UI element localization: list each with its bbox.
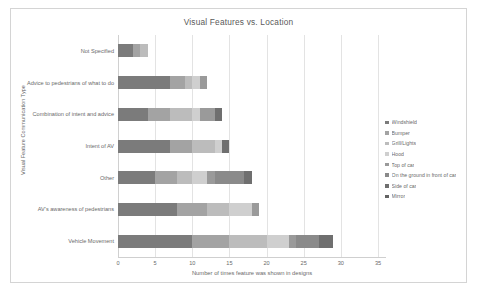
legend-swatch-icon xyxy=(385,142,389,146)
x-axis-tick-label: 10 xyxy=(189,260,195,266)
legend-item[interactable]: Mirror xyxy=(385,191,479,202)
x-axis-tick-label: 0 xyxy=(116,260,119,266)
bar-segment[interactable] xyxy=(215,108,222,121)
bar-segment[interactable] xyxy=(118,44,133,57)
legend-swatch-icon xyxy=(385,152,389,156)
bar-segment[interactable] xyxy=(170,108,192,121)
bar-segment[interactable] xyxy=(267,235,289,248)
legend-label: Grill/Lights xyxy=(392,140,417,146)
gridline-20 xyxy=(267,35,268,257)
bar-segment[interactable] xyxy=(319,235,334,248)
bar-segment[interactable] xyxy=(118,140,170,153)
bar-row[interactable] xyxy=(118,140,229,153)
bar-segment[interactable] xyxy=(192,140,214,153)
bar-row[interactable] xyxy=(118,44,148,57)
bar-segment[interactable] xyxy=(118,235,192,248)
legend-label: On the ground in front of car xyxy=(392,172,457,178)
bar-segment[interactable] xyxy=(192,171,207,184)
bar-segment[interactable] xyxy=(200,76,207,89)
x-axis-line xyxy=(118,257,386,258)
bar-segment[interactable] xyxy=(296,235,318,248)
gridline-35 xyxy=(378,35,379,257)
legend-item[interactable]: Top of car xyxy=(385,159,479,170)
legend-label: Top of car xyxy=(392,162,415,168)
legend-label: Bumper xyxy=(392,130,410,136)
bar-segment[interactable] xyxy=(289,235,296,248)
bar-segment[interactable] xyxy=(177,171,192,184)
legend-item[interactable]: Grill/Lights xyxy=(385,138,479,149)
legend-item[interactable]: Hood xyxy=(385,149,479,160)
bar-segment[interactable] xyxy=(118,108,148,121)
bar-segment[interactable] xyxy=(185,76,192,89)
bar-row[interactable] xyxy=(118,108,222,121)
x-axis-tick-label: 15 xyxy=(226,260,232,266)
bar-segment[interactable] xyxy=(207,171,214,184)
bar-segment[interactable] xyxy=(133,44,140,57)
legend-swatch-icon xyxy=(385,131,389,135)
chart-legend: WindshieldBumperGrill/LightsHoodTop of c… xyxy=(385,117,479,202)
legend-swatch-icon xyxy=(385,121,389,125)
bar-segment[interactable] xyxy=(252,203,259,216)
bar-segment[interactable] xyxy=(192,235,229,248)
bar-row[interactable] xyxy=(118,203,259,216)
bar-segment[interactable] xyxy=(229,235,266,248)
y-axis-tick-label: Not Specified xyxy=(81,48,114,54)
legend-item[interactable]: On the ground in front of car xyxy=(385,170,479,181)
bar-row[interactable] xyxy=(118,171,252,184)
bar-segment[interactable] xyxy=(215,140,222,153)
bar-segment[interactable] xyxy=(222,140,229,153)
legend-label: Mirror xyxy=(392,193,406,199)
y-axis-tick-label: Other xyxy=(100,175,114,181)
y-axis-tick-label: Intent of AV xyxy=(85,143,114,149)
legend-swatch-icon xyxy=(385,195,389,199)
x-axis-title: Number of times feature was shown in des… xyxy=(118,270,386,276)
bar-segment[interactable] xyxy=(177,203,207,216)
y-axis-tick-label: Vehicle Movement xyxy=(68,238,114,244)
bar-segment[interactable] xyxy=(192,76,199,89)
bar-segment[interactable] xyxy=(192,108,199,121)
legend-swatch-icon xyxy=(385,184,389,188)
y-axis-tick-label: Advice to pedestrians of what to do xyxy=(27,80,114,86)
x-axis-tick-label: 5 xyxy=(154,260,157,266)
y-axis-tick-labels: Not SpecifiedAdvice to pedestrians of wh… xyxy=(41,35,114,257)
legend-item[interactable]: Bumper xyxy=(385,128,479,139)
x-axis-tick-label: 25 xyxy=(301,260,307,266)
bar-segment[interactable] xyxy=(148,108,170,121)
legend-label: Side of car xyxy=(392,183,417,189)
legend-label: Hood xyxy=(392,151,404,157)
x-axis-tick-label: 20 xyxy=(263,260,269,266)
bar-segment[interactable] xyxy=(170,76,185,89)
x-axis-tick-label: 35 xyxy=(375,260,381,266)
legend-swatch-icon xyxy=(385,173,389,177)
bar-segment[interactable] xyxy=(155,171,177,184)
bar-segment[interactable] xyxy=(118,203,177,216)
bar-segment[interactable] xyxy=(215,171,245,184)
bar-segment[interactable] xyxy=(229,203,251,216)
gridline-15 xyxy=(229,35,230,257)
gridline-25 xyxy=(304,35,305,257)
legend-label: Windshield xyxy=(392,119,417,125)
bar-row[interactable] xyxy=(118,76,207,89)
y-axis-tick-label: Combination of intent and advice xyxy=(33,111,114,117)
legend-item[interactable]: Windshield xyxy=(385,117,479,128)
gridline-30 xyxy=(341,35,342,257)
legend-swatch-icon xyxy=(385,163,389,167)
bar-segment[interactable] xyxy=(140,44,147,57)
bar-segment[interactable] xyxy=(170,140,192,153)
chart-title: Visual Features vs. Location xyxy=(11,17,466,27)
chart-container: Visual Features vs. Location Visual Feat… xyxy=(10,8,467,283)
x-axis-tick-label: 30 xyxy=(338,260,344,266)
bar-row[interactable] xyxy=(118,235,333,248)
bar-segment[interactable] xyxy=(207,203,229,216)
plot-area xyxy=(118,35,386,257)
bar-segment[interactable] xyxy=(200,108,215,121)
bar-segment[interactable] xyxy=(118,171,155,184)
bar-segment[interactable] xyxy=(118,76,170,89)
bar-segment[interactable] xyxy=(244,171,251,184)
y-axis-tick-label: AV's awareness of pedestrians xyxy=(38,206,114,212)
y-axis-title: Visual Feature Communication Type xyxy=(20,70,26,190)
legend-item[interactable]: Side of car xyxy=(385,181,479,192)
